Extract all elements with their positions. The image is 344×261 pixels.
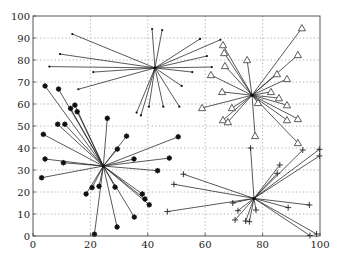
cluster-link-line [65,124,103,166]
dot-marker [162,106,164,108]
cluster-links [42,28,320,235]
star-marker [74,109,80,115]
dot-marker [206,55,208,57]
star-marker [42,156,48,162]
triangle-marker [267,88,274,94]
dot-marker [178,106,180,108]
star-marker [68,106,74,112]
cluster-link-line [254,198,317,234]
grid-lines [33,16,320,236]
dot-marker [92,71,94,73]
x-tick-label: 20 [84,239,97,250]
cluster-link-line [137,68,155,113]
plus-marker [253,207,259,213]
star-marker [112,184,118,190]
triangle-marker [228,104,235,110]
cluster-link-line [49,67,155,68]
star-marker [132,214,138,220]
cluster-link-line [93,68,155,72]
cluster-link-line [183,174,254,198]
star-marker [56,86,62,92]
star-marker [131,156,137,162]
x-tick-label: 100 [310,239,329,250]
cluster-link-line [254,156,319,198]
cluster-link-line [103,166,134,217]
plus-marker [171,181,177,187]
cluster-center-marker [250,94,253,97]
star-marker [39,175,45,181]
star-marker [89,185,95,191]
cluster-link-line [149,68,155,107]
plus-marker [235,208,241,214]
triangle-marker [283,116,290,122]
cluster-center-marker [252,197,255,200]
cluster-link-line [222,92,252,95]
star-marker [83,191,89,197]
y-tick-label: 50 [17,121,30,132]
y-tick-label: 10 [17,209,30,220]
cluster-link-line [72,34,155,68]
star-marker [42,83,48,89]
triangle-marker [283,75,290,81]
y-tick-label: 20 [17,187,30,198]
star-marker [96,183,102,189]
cluster-link-line [247,60,252,95]
cluster-link-line [252,95,298,119]
dot-marker [191,71,193,73]
triangle-marker [221,49,228,55]
cluster-link-line [155,67,212,68]
plus-marker [316,153,322,159]
cluster-link-line [60,54,155,68]
triangle-marker [298,25,305,31]
x-tick-label: 40 [141,239,154,250]
plus-marker [306,202,312,208]
star-marker [62,121,68,127]
dot-marker [199,38,201,40]
cluster-link-line [174,184,254,198]
cluster-link-line [252,95,255,136]
plus-marker [248,145,254,151]
cluster-link-line [155,68,163,107]
triangle-marker [207,71,214,77]
x-tick-label: 80 [256,239,269,250]
star-marker [61,160,67,166]
y-tick-label: 70 [17,77,30,88]
cluster-link-line [155,40,220,68]
cluster-link-line [42,166,104,178]
y-tick-label: 80 [17,55,30,66]
star-marker [115,146,121,152]
triangle-marker [219,41,226,47]
x-tick-label: 60 [199,239,212,250]
dot-marker [59,53,61,55]
star-marker [142,196,148,202]
cluster-link-line [155,30,162,68]
triangle-marker [219,88,226,94]
plus-marker [230,200,236,206]
plus-marker [285,205,291,211]
dot-marker [161,29,163,31]
star-marker [167,155,173,161]
cluster-link-line [141,68,155,116]
y-tick-label: 60 [17,99,30,110]
star-marker [155,168,161,174]
cluster-link-line [254,150,303,198]
dot-marker [219,39,221,41]
y-tick-label: 0 [24,231,30,242]
plus-marker [164,209,170,215]
star-marker [105,116,111,122]
y-axis-ticks: 0102030405060708090100 [11,11,36,242]
cluster-link-line [155,56,207,68]
cluster-link-line [225,66,252,95]
y-tick-label: 40 [17,143,30,154]
dot-marker [148,106,150,108]
triangle-marker [294,51,301,57]
cluster-link-line [103,118,107,166]
cluster-link-line [252,28,302,95]
plus-marker [243,218,249,224]
cluster-link-line [94,166,103,234]
dot-marker [140,114,142,116]
cluster-link-line [254,198,288,207]
cluster-link-line [155,68,179,107]
dot-marker [136,111,138,113]
triangle-marker [221,62,228,68]
